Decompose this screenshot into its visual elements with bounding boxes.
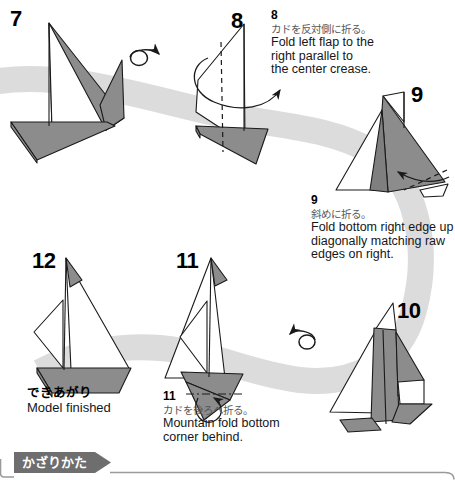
instruction-page: 7 8 9 10 11 12 8 カドを反対側に折る。 Fold left fl… — [0, 0, 455, 480]
caption-step-9: 9 斜めに折る。 Fold bottom right edge up diago… — [311, 194, 455, 262]
caption-en-9-line3: edges on right. — [311, 248, 455, 262]
model-finished-label: できあがり Model finished — [27, 386, 111, 415]
caption-step-8: 8 カドを反対側に折る。 Fold left flap to the right… — [271, 9, 431, 77]
caption-en-9-line1: Fold bottom right edge up — [311, 221, 455, 235]
step-number-8: 8 — [231, 10, 243, 32]
step-number-11: 11 — [176, 250, 198, 272]
caption-en-11-line2: corner behind. — [163, 431, 323, 445]
finish-label-en: Model finished — [27, 401, 111, 415]
banner-outline — [1, 459, 15, 477]
caption-en-8-line2: right parallel to — [271, 50, 431, 64]
caption-jp-8: カドを反対側に折る。 — [271, 23, 431, 35]
caption-en-8-line3: the center crease. — [271, 63, 431, 77]
step-number-9: 9 — [411, 84, 423, 106]
caption-step-11: 11 カドを後ろへ折る。 Mountain fold bottom corner… — [163, 390, 323, 444]
caption-en-8-line1: Fold left flap to the — [271, 36, 431, 50]
step-number-7: 7 — [10, 8, 22, 30]
banner-rule — [110, 473, 454, 480]
text-layer: 7 8 9 10 11 12 8 カドを反対側に折る。 Fold left fl… — [0, 0, 455, 480]
step-number-12: 12 — [32, 250, 55, 272]
caption-jp-9: 斜めに折る。 — [311, 208, 455, 220]
caption-number-8: 8 — [271, 9, 431, 22]
banner-label: かざりかた — [14, 452, 103, 473]
caption-en-11-line1: Mountain fold bottom — [163, 417, 323, 431]
section-banner: かざりかた — [0, 447, 455, 480]
caption-en-9-line2: diagonally matching raw — [311, 235, 455, 249]
caption-number-9: 9 — [311, 194, 455, 207]
step-number-10: 10 — [397, 300, 420, 322]
caption-jp-11: カドを後ろへ折る。 — [163, 404, 323, 416]
caption-number-11: 11 — [163, 390, 323, 403]
finish-label-jp: できあがり — [27, 386, 111, 400]
